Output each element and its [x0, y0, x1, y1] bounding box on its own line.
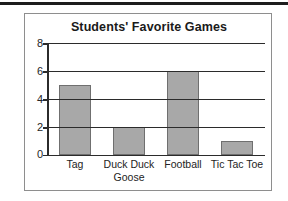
y-tickmark-2 [43, 127, 47, 129]
bar-tic-tac-toe [221, 141, 253, 155]
x-axis-labels: Tag Duck Duck Goose Football Tic Tac Toe [47, 158, 265, 188]
y-tick-label-6: 6 [25, 66, 43, 77]
x-label-tic-tac-toe-line-1: Tic Tac Toe [211, 158, 263, 170]
y-axis-line [47, 43, 49, 155]
x-label-football-line-1: Football [164, 158, 201, 170]
y-tick-label-2: 2 [25, 122, 43, 133]
x-label-tic-tac-toe: Tic Tac Toe [209, 158, 265, 171]
x-label-tag: Tag [47, 158, 103, 171]
y-tick-label-4: 4 [25, 94, 43, 105]
plot-area: 8 6 4 2 0 Tag Duck Duck Goose Football T… [25, 14, 273, 192]
x-label-duck-duck-goose: Duck Duck Goose [101, 158, 157, 183]
y-tickmark-4 [43, 99, 47, 101]
x-label-tag-line-1: Tag [67, 158, 84, 170]
bar-tag [59, 85, 91, 155]
bar-football [167, 71, 199, 155]
y-tick-label-0: 0 [25, 149, 43, 160]
y-tickmark-6 [43, 71, 47, 73]
x-label-duck-duck-goose-line-1: Duck Duck [104, 158, 155, 170]
bars-layer [47, 43, 265, 155]
x-label-football: Football [155, 158, 211, 171]
chart-panel: Students' Favorite Games 8 6 4 2 0 [24, 13, 272, 191]
x-label-duck-duck-goose-line-2: Goose [114, 171, 145, 183]
y-tickmark-0 [43, 155, 47, 157]
y-tick-label-8: 8 [25, 38, 43, 49]
y-tickmark-8 [43, 43, 47, 45]
x-axis-line [47, 155, 265, 157]
page-top-rule [0, 2, 288, 5]
bar-duck-duck-goose [113, 127, 145, 155]
